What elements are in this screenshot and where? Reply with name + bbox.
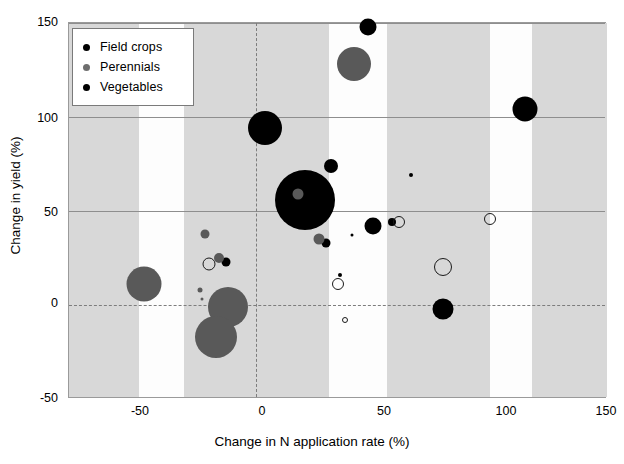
bubble-perennials-8 — [197, 287, 202, 292]
filled-black-dot-icon — [83, 44, 90, 51]
bubble-field-crops-12 — [351, 234, 354, 237]
legend: Field cropsPerennialsVegetables — [72, 28, 194, 106]
legend-item-label: Perennials — [100, 60, 160, 74]
bubble-vegetables-3 — [332, 278, 344, 290]
bubble-vegetables-5 — [342, 317, 348, 323]
x-axis-title: Change in N application rate (%) — [0, 434, 624, 449]
bubble-vegetables-2 — [434, 258, 452, 276]
reference-line-y-zero — [69, 305, 605, 306]
bubble-field-crops-0 — [248, 111, 282, 145]
y-tick-label--50: -50 — [14, 391, 58, 405]
legend-item-label: Vegetables — [100, 80, 163, 94]
y-tick-label-150: 150 — [14, 15, 58, 29]
gridline-y-150 — [69, 23, 605, 24]
legend-item-field-crops: Field crops — [83, 37, 185, 57]
filled-gray-dot-icon — [83, 64, 90, 71]
bubble-perennials-2 — [126, 267, 161, 302]
bubble-vegetables-1 — [484, 213, 496, 225]
x-tick-label-100: 100 — [496, 404, 517, 418]
bubble-field-crops-3 — [360, 18, 377, 35]
bubble-field-crops-11 — [338, 273, 342, 277]
bubble-field-crops-8 — [433, 298, 454, 319]
legend-item-perennials: Perennials — [83, 57, 185, 77]
legend-item-vegetables: Vegetables — [83, 77, 185, 97]
x-tick-label-0: 0 — [259, 404, 266, 418]
bubble-field-crops-5 — [365, 218, 382, 235]
bubble-perennials-1 — [293, 189, 304, 200]
bubble-vegetables-0 — [393, 216, 405, 228]
bubble-field-crops-2 — [324, 159, 338, 173]
y-axis-title: Change in yield (%) — [8, 31, 23, 361]
y-tick-label-0: 0 — [14, 296, 58, 310]
x-tick-label-150: 150 — [596, 404, 617, 418]
bubble-perennials-0 — [337, 47, 371, 81]
bubble-perennials-9 — [201, 298, 204, 301]
bubble-field-crops-4 — [513, 97, 538, 122]
shaded-band-3 — [387, 23, 490, 397]
bubble-field-crops-1 — [275, 170, 335, 230]
gridline-y-50 — [69, 211, 605, 212]
x-tick-label-50: 50 — [377, 404, 391, 418]
reference-line-x-zero — [256, 23, 257, 397]
bubble-field-crops-10 — [409, 173, 413, 177]
shaded-band-4 — [532, 23, 607, 397]
x-tick-label--50: -50 — [131, 404, 149, 418]
bubble-perennials-6 — [200, 229, 209, 238]
y-tick-label-100: 100 — [14, 111, 58, 125]
y-tick-label-50: 50 — [14, 205, 58, 219]
bubble-chart-figure: Change in yield (%) 150 100 50 0 -50 -50… — [0, 0, 624, 464]
legend-item-label: Field crops — [100, 40, 162, 54]
bubble-perennials-5 — [314, 234, 325, 245]
bubble-vegetables-4 — [203, 257, 216, 270]
filled-black-dot-icon — [83, 84, 90, 91]
bubble-perennials-4 — [195, 316, 237, 358]
